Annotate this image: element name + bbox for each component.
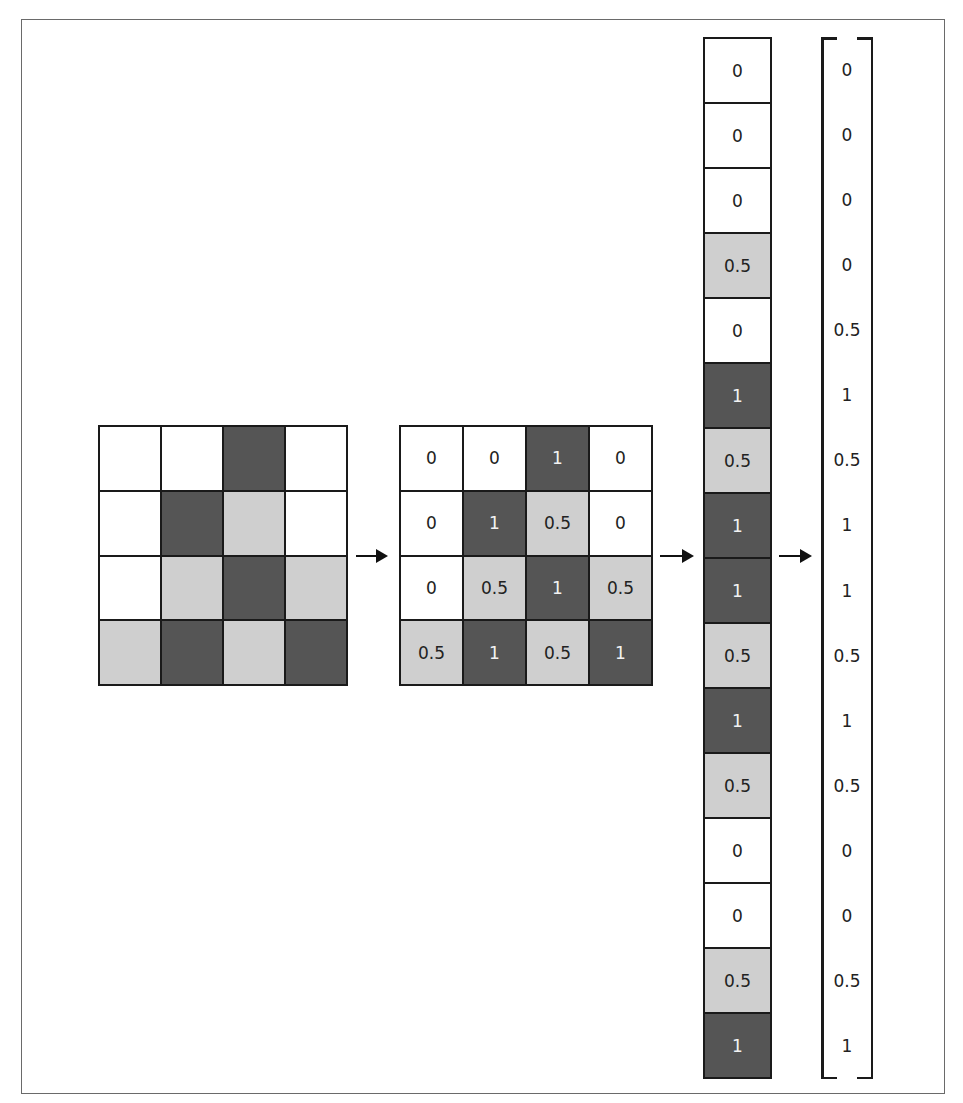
image-pixel	[162, 427, 222, 490]
vector-cell: 0.5	[705, 234, 770, 297]
vector-cell: 0	[705, 104, 770, 167]
bracket-value: 0	[821, 37, 873, 102]
arrow-right-icon	[779, 555, 810, 557]
value-cell: 0	[590, 427, 651, 490]
value-cell: 0.5	[590, 557, 651, 620]
image-pixel	[224, 621, 284, 684]
image-pixel	[100, 427, 160, 490]
bracket-value: 1	[821, 1014, 873, 1079]
vector-cell: 0.5	[705, 949, 770, 1012]
image-grid	[98, 425, 348, 686]
vector-cell: 0	[705, 39, 770, 102]
vector-cell: 1	[705, 559, 770, 622]
bracket-value: 0.5	[821, 623, 873, 688]
image-pixel	[286, 427, 346, 490]
bracket-value: 0	[821, 884, 873, 949]
vector-cell: 0.5	[705, 429, 770, 492]
value-cell: 0	[464, 427, 525, 490]
image-pixel	[100, 621, 160, 684]
value-cell: 0.5	[527, 492, 588, 555]
image-pixel	[162, 557, 222, 620]
image-pixel	[224, 427, 284, 490]
bracket-value: 0.5	[821, 949, 873, 1014]
bracket-value: 1	[821, 558, 873, 623]
value-cell: 0	[401, 492, 462, 555]
value-cell: 1	[590, 621, 651, 684]
value-cell: 1	[527, 427, 588, 490]
vector-cell: 0.5	[705, 754, 770, 817]
column-vector: 0000.5010.5110.510.5000.51	[703, 37, 772, 1079]
arrow-right-icon	[356, 555, 386, 557]
vector-cell: 0.5	[705, 624, 770, 687]
bracket-vector: 00000.510.5110.510.5000.51	[821, 37, 873, 1079]
bracket-value: 0.5	[821, 298, 873, 363]
bracket-value: 0	[821, 102, 873, 167]
bracket-value: 1	[821, 493, 873, 558]
image-pixel	[224, 557, 284, 620]
value-grid: 0010010.5000.510.50.510.51	[399, 425, 653, 686]
image-pixel	[162, 492, 222, 555]
value-cell: 0.5	[527, 621, 588, 684]
value-cell: 0	[401, 557, 462, 620]
vector-cell: 1	[705, 1014, 770, 1077]
vector-cell: 0	[705, 169, 770, 232]
image-pixel	[100, 557, 160, 620]
value-cell: 1	[527, 557, 588, 620]
value-cell: 0.5	[464, 557, 525, 620]
bracket-value: 1	[821, 363, 873, 428]
bracket-value: 0.5	[821, 753, 873, 818]
vector-cell: 1	[705, 689, 770, 752]
value-cell: 1	[464, 492, 525, 555]
vector-cell: 0	[705, 819, 770, 882]
value-cell: 1	[464, 621, 525, 684]
image-pixel	[286, 557, 346, 620]
bracket-values: 00000.510.5110.510.5000.51	[821, 37, 873, 1079]
vector-cell: 0	[705, 299, 770, 362]
bracket-value: 0	[821, 167, 873, 232]
bracket-value: 1	[821, 688, 873, 753]
image-pixel	[224, 492, 284, 555]
vector-cell: 1	[705, 494, 770, 557]
image-pixel	[162, 621, 222, 684]
bracket-value: 0	[821, 819, 873, 884]
bracket-value: 0	[821, 232, 873, 297]
vector-cell: 1	[705, 364, 770, 427]
value-cell: 0.5	[401, 621, 462, 684]
image-pixel	[286, 492, 346, 555]
value-cell: 0	[401, 427, 462, 490]
arrow-right-icon	[660, 555, 692, 557]
image-pixel	[286, 621, 346, 684]
value-cell: 0	[590, 492, 651, 555]
image-pixel	[100, 492, 160, 555]
vector-cell: 0	[705, 884, 770, 947]
bracket-value: 0.5	[821, 428, 873, 493]
